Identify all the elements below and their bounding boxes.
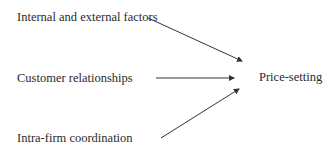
arrow-intra-to-price (161, 89, 239, 138)
edges-layer (0, 0, 331, 153)
arrow-internal-to-price (148, 18, 242, 61)
